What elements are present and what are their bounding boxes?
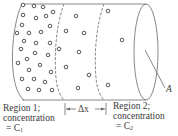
particle: [41, 5, 45, 9]
particle: [48, 41, 52, 45]
particle: [50, 88, 54, 92]
particle: [76, 86, 80, 90]
particle: [27, 31, 31, 35]
region2-value: = C2: [113, 121, 165, 133]
delta-x-label: Δx: [78, 104, 89, 114]
particle: [74, 14, 78, 18]
particle: [46, 53, 50, 57]
particle: [20, 77, 24, 81]
region2-concentration: concentration: [113, 111, 165, 121]
particle: [26, 87, 30, 91]
particle: [39, 30, 43, 34]
particle: [51, 10, 55, 14]
particle: [38, 63, 42, 67]
particle: [33, 51, 37, 55]
cylinder-left-end: [12, 4, 24, 100]
particle: [15, 31, 19, 35]
region2-label: Region 2; concentration = C2: [113, 101, 165, 133]
particle: [27, 68, 31, 72]
particle: [48, 24, 52, 28]
particle: [82, 31, 86, 35]
particle: [120, 38, 124, 42]
particle: [21, 13, 25, 17]
region2-title: Region 2;: [113, 101, 165, 111]
particle: [32, 4, 36, 8]
particle: [77, 50, 81, 54]
particle: [20, 23, 24, 27]
particle: [57, 47, 61, 51]
region1-concentration: concentration: [3, 113, 55, 123]
region1-title: Region 1;: [3, 103, 55, 113]
particle: [64, 65, 68, 69]
particle: [44, 14, 48, 18]
particle: [32, 77, 36, 81]
region1-label: Region 1; concentration = C1: [3, 103, 55, 135]
particle: [16, 61, 20, 65]
particle: [106, 9, 110, 13]
boundary-1: [55, 4, 64, 100]
particle: [22, 39, 26, 43]
particle: [43, 80, 47, 84]
particle: [37, 88, 41, 92]
particle: [34, 16, 38, 20]
particles: [15, 3, 124, 92]
particle: [21, 3, 25, 7]
particle: [25, 57, 29, 61]
area-label: A: [166, 84, 172, 94]
particle: [19, 47, 23, 51]
particle: [87, 73, 91, 77]
region1-value: = C1: [3, 123, 55, 135]
boundary-2: [95, 4, 104, 100]
particle: [49, 70, 53, 74]
arrowhead-right: [101, 108, 105, 111]
particle: [64, 29, 68, 33]
particle: [106, 83, 110, 87]
particle: [34, 41, 38, 45]
arrowhead-left: [66, 108, 70, 111]
